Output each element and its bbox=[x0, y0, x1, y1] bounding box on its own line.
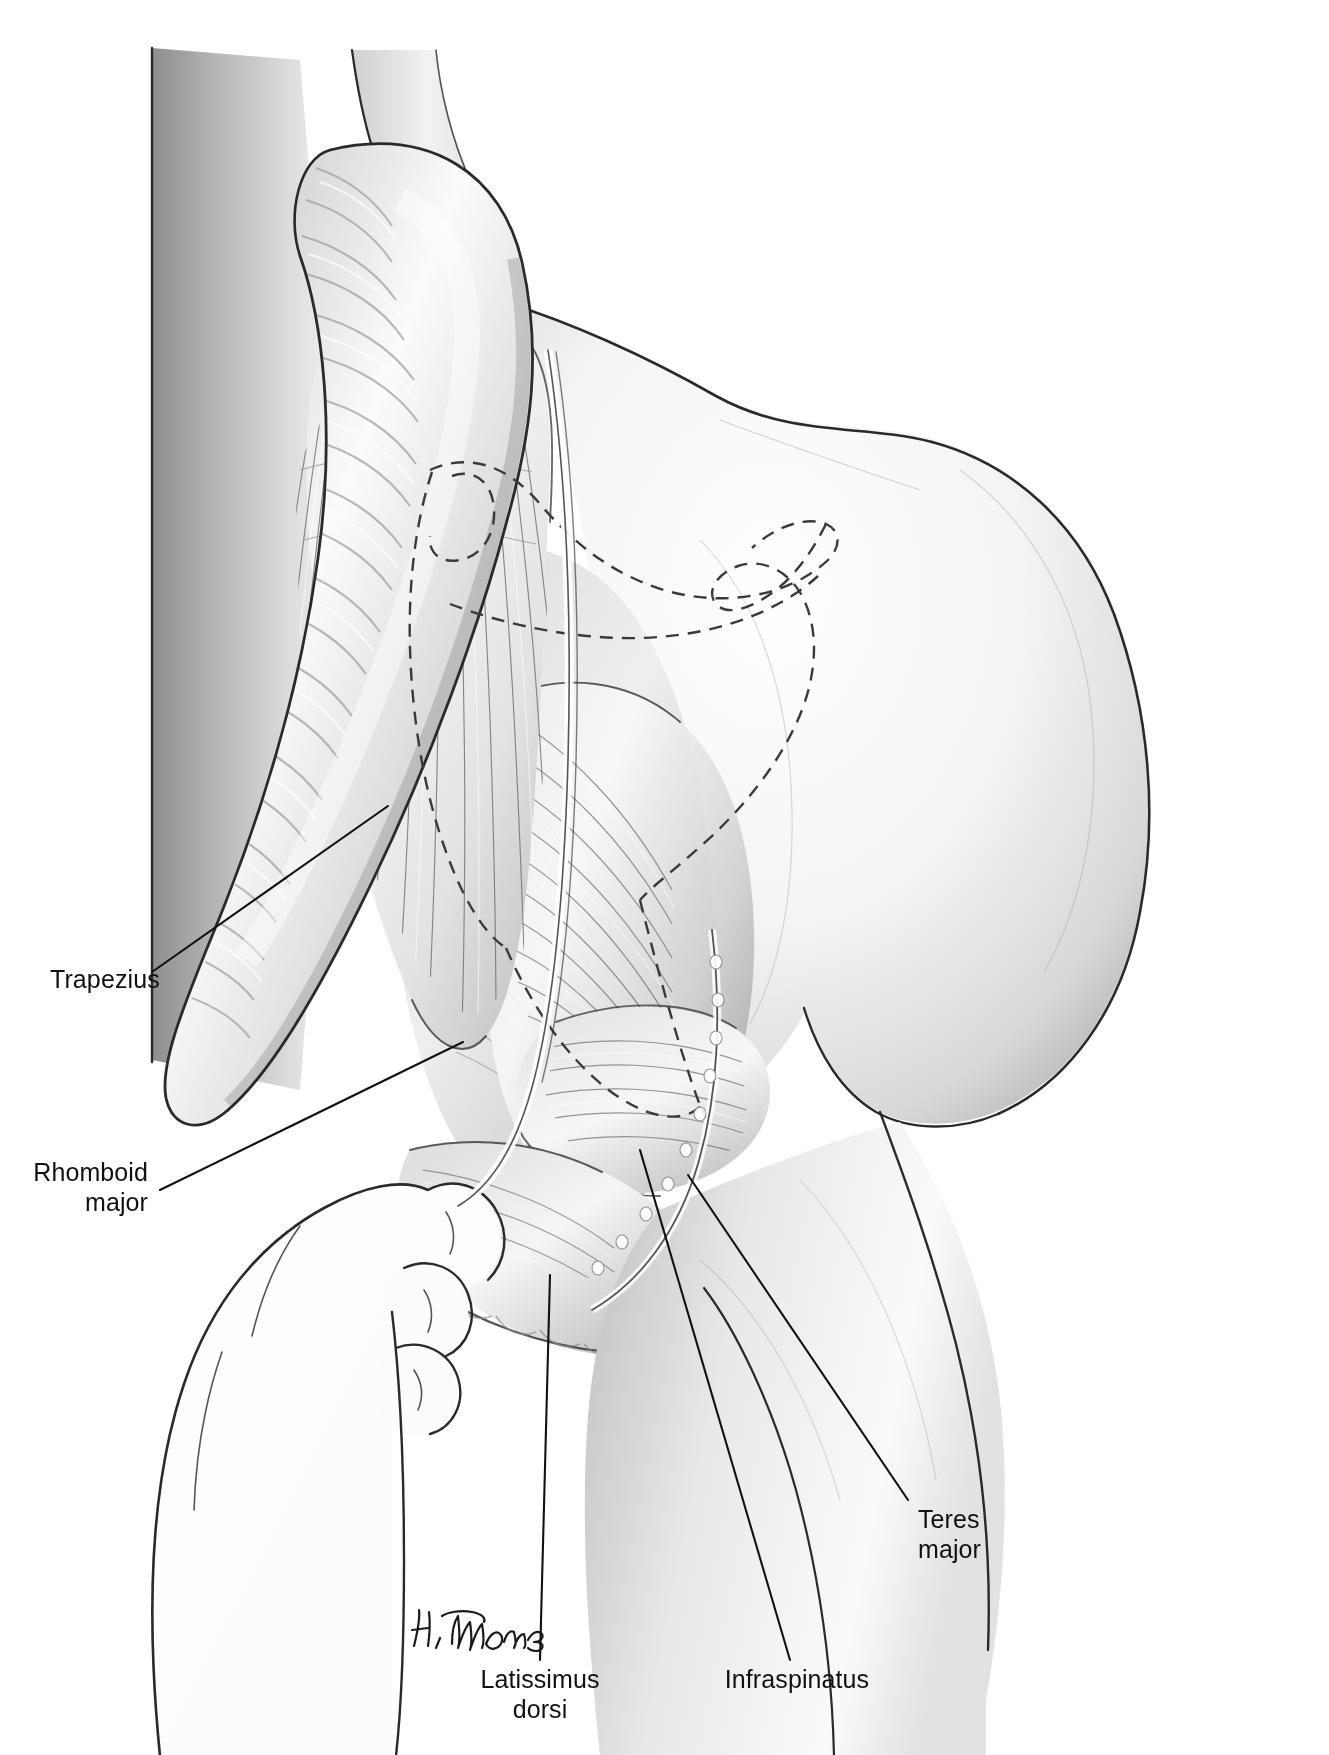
label-latissimus-dorsi-line-1: Latissimus bbox=[480, 1665, 599, 1693]
anatomy-illustration-canvas: TrapeziusRhomboidmajorTeresmajorLatissim… bbox=[0, 0, 1329, 1755]
label-rhomboid-major-line-1: Rhomboid bbox=[33, 1158, 148, 1186]
label-rhomboid-major-line-2: major bbox=[85, 1188, 148, 1216]
label-teres-major-line-1: Teres bbox=[918, 1505, 980, 1533]
label-teres-major-line-2: major bbox=[918, 1535, 981, 1563]
label-trapezius: Trapezius bbox=[50, 965, 160, 993]
label-trapezius-line-1: Trapezius bbox=[50, 965, 160, 993]
label-latissimus-dorsi-line-2: dorsi bbox=[513, 1695, 568, 1723]
label-infraspinatus: Infraspinatus bbox=[725, 1665, 869, 1693]
label-infraspinatus-line-1: Infraspinatus bbox=[725, 1665, 869, 1693]
anatomical-figure: TrapeziusRhomboidmajorTeresmajorLatissim… bbox=[0, 0, 1329, 1755]
